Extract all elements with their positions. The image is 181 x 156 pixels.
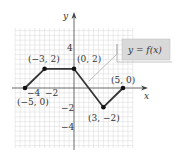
x-axis-label: x <box>144 91 149 101</box>
point-3-m2 <box>101 105 106 110</box>
label-point-3-m2: (3, −2) <box>88 113 120 123</box>
tick-y-neg4: −4 <box>61 122 75 132</box>
label-point-0-2: (0, 2) <box>77 54 101 64</box>
function-label: y = f(x) <box>127 45 162 55</box>
point-5-0 <box>121 86 126 91</box>
point-m5-0 <box>23 86 28 91</box>
label-point-5-0: (5, 0) <box>111 75 135 85</box>
label-point-m3-2: (−3, 2) <box>28 54 60 64</box>
label-point-m5-0: (−5, 0) <box>17 97 49 107</box>
tick-y-4: 4 <box>67 43 73 53</box>
tick-y-neg2: −2 <box>61 103 74 113</box>
point-0-2 <box>72 67 77 72</box>
y-axis-label: y <box>62 11 69 21</box>
point-m3-2 <box>42 67 47 72</box>
function-graph: y x −4 −2 4 −2 −4 y = f(x) (−3, 2) (0, 2… <box>0 0 181 156</box>
